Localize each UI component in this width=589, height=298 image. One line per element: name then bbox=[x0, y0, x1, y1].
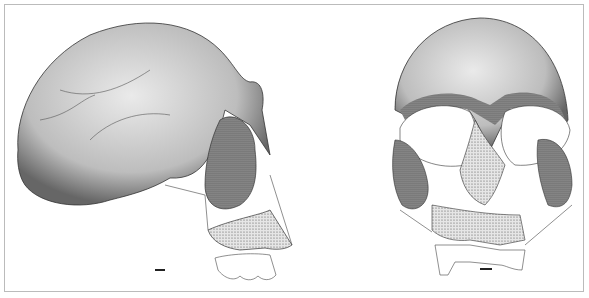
lateral-maxilla bbox=[208, 210, 292, 250]
lateral-teeth bbox=[215, 254, 276, 280]
skull-illustration bbox=[0, 0, 589, 298]
lateral-skull bbox=[18, 23, 292, 280]
frontal-teeth bbox=[435, 245, 525, 275]
right-zygomatic bbox=[537, 139, 572, 206]
scale-bar-right bbox=[480, 268, 492, 270]
frontal-skull bbox=[393, 18, 572, 275]
scale-bar-left bbox=[155, 269, 165, 271]
frontal-maxilla bbox=[432, 205, 525, 245]
